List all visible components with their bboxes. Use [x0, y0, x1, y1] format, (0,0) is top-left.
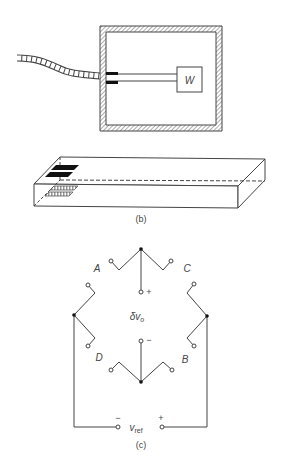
caption-b: (b): [136, 214, 147, 224]
output-plus-terminal: [139, 290, 143, 294]
beam-3d: [34, 157, 265, 208]
arm-b-right: [187, 316, 207, 346]
output-minus-terminal: [139, 339, 143, 343]
ref-voltage-label: vref: [129, 422, 142, 434]
wheatstone-bridge: [74, 249, 207, 427]
caption-c: (c): [136, 440, 147, 450]
output-plus-sign: +: [146, 287, 151, 297]
output-minus-sign: −: [146, 335, 151, 345]
cantilever-beam: [106, 72, 177, 84]
label-d: D: [95, 352, 102, 363]
ref-minus-sign: −: [115, 413, 120, 423]
mass-label: W: [185, 75, 196, 86]
ref-plus-sign: +: [158, 413, 163, 423]
load-cell-enclosure: [100, 26, 222, 131]
arm-a-left: [74, 285, 95, 315]
strain-gauge-figure: W (b): [0, 0, 284, 473]
arm-d-bottom: [111, 362, 141, 382]
arm-d-left: [74, 315, 95, 346]
arm-c-right: [187, 284, 207, 316]
label-c: C: [183, 263, 191, 274]
strain-gauge-top: [106, 72, 118, 75]
output-voltage-label: δvo: [130, 311, 145, 323]
strain-gauge-bottom: [106, 81, 118, 84]
mass-w: W: [177, 67, 202, 92]
arm-a-top: [111, 249, 141, 270]
label-a: A: [93, 263, 101, 274]
ref-plus-terminal: [160, 425, 164, 429]
ref-minus-terminal: [116, 425, 120, 429]
cable: [17, 58, 100, 76]
arm-c-top: [141, 249, 171, 270]
arm-b-bottom: [141, 362, 172, 382]
label-b: B: [182, 354, 189, 365]
